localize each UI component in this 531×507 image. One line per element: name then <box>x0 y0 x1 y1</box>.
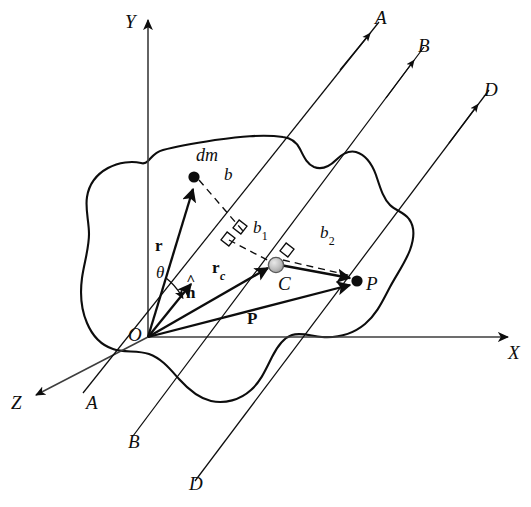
dm-label: dm <box>196 146 218 164</box>
vector-r-c-base: r <box>212 258 220 277</box>
rigid-body-parallel-axis-figure: Y X Z O A B D A B D dm C P r rc P ^n θ b… <box>0 0 531 507</box>
axis-A-bottom-label: A <box>86 393 98 412</box>
z-axis-label: Z <box>11 393 22 412</box>
axis-B-bottom-label: B <box>128 432 140 451</box>
center-of-mass-marker <box>268 257 283 272</box>
distance-b2-base: b <box>320 223 329 242</box>
P-marker <box>351 275 362 286</box>
axis-line-D-arrow <box>449 107 476 143</box>
vector-r-c-label: rc <box>212 259 225 280</box>
figure-canvas <box>0 0 531 507</box>
distance-b-label: b <box>224 166 233 183</box>
distance-b1-label: b1 <box>253 219 267 240</box>
unit-vector-n-hat-label: ^n <box>186 284 195 301</box>
axis-line-B-arrow <box>386 63 412 98</box>
distance-b1-base: b <box>253 218 262 237</box>
axis-line-A-arrow <box>340 36 368 70</box>
axis-B-top-label: B <box>418 36 430 55</box>
x-axis-label: X <box>508 343 520 362</box>
theta-angle-label: θ <box>156 264 164 281</box>
z-axis-line <box>36 337 148 395</box>
distance-b2-subscript: 2 <box>329 234 335 248</box>
n-hat-caret: ^ <box>186 272 195 288</box>
distance-b2-label: b2 <box>320 224 334 245</box>
center-of-mass-label: C <box>278 274 291 293</box>
distance-b1-subscript: 1 <box>262 229 268 243</box>
P-point-label: P <box>366 274 378 293</box>
vector-r-label: r <box>155 237 163 254</box>
vector-r-c-subscript: c <box>220 269 225 283</box>
axis-D-bottom-label: D <box>189 474 203 493</box>
origin-label: O <box>128 325 142 344</box>
vector-P-label: P <box>247 310 257 327</box>
dm-marker <box>188 171 199 182</box>
body-boundary-path <box>81 136 413 402</box>
rigid-body-outline <box>81 136 413 402</box>
axis-D-top-label: D <box>484 80 498 99</box>
y-axis-label: Y <box>125 12 136 31</box>
axis-A-top-label: A <box>375 8 387 27</box>
